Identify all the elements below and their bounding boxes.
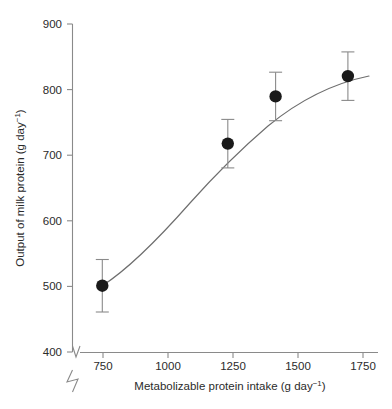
data-series — [96, 52, 355, 312]
x-axis-title: Metabolizable protein intake (g day−1) — [134, 379, 325, 392]
x-tick-label-750: 750 — [93, 360, 112, 372]
y-axis — [67, 24, 73, 352]
data-point-group-3[interactable] — [269, 72, 282, 121]
data-point-marker-1[interactable] — [96, 280, 108, 292]
x-tick-label-1500: 1500 — [285, 360, 311, 372]
x-tick-label-1750: 1750 — [350, 360, 376, 372]
x-tick-label-1000: 1000 — [155, 360, 181, 372]
data-point-group-2[interactable] — [221, 119, 234, 167]
y-axis-title-tail: ) — [14, 109, 26, 113]
data-point-group-1[interactable] — [96, 260, 109, 313]
x-axis-title-main: Metabolizable protein intake (g day — [134, 380, 313, 392]
data-point-marker-4[interactable] — [342, 70, 354, 82]
milk-protein-response-chart: 900 800 700 600 500 400 750 1000 1250 15… — [0, 0, 392, 409]
x-axis-break-icon — [73, 346, 81, 357]
y-tick-label-900: 900 — [43, 18, 62, 30]
data-point-group-4[interactable] — [341, 52, 354, 101]
x-axis — [80, 353, 378, 359]
data-point-marker-3[interactable] — [269, 90, 281, 102]
y-tick-label-700: 700 — [43, 149, 62, 161]
y-axis-title-main: Output of milk protein (g day — [14, 122, 26, 267]
y-axis-break-icon — [67, 370, 78, 392]
y-tick-label-600: 600 — [43, 215, 62, 227]
y-tick-label-800: 800 — [43, 84, 62, 96]
x-axis-title-tail: ) — [322, 380, 326, 392]
y-axis-title: Output of milk protein (g day−1) — [13, 109, 26, 267]
data-point-marker-2[interactable] — [222, 137, 234, 149]
fitted-response-curve — [102, 76, 369, 286]
y-tick-label-500: 500 — [43, 280, 62, 292]
x-tick-label-1250: 1250 — [220, 360, 246, 372]
figure-root: 900 800 700 600 500 400 750 1000 1250 15… — [0, 0, 392, 409]
y-tick-label-400: 400 — [43, 346, 62, 358]
